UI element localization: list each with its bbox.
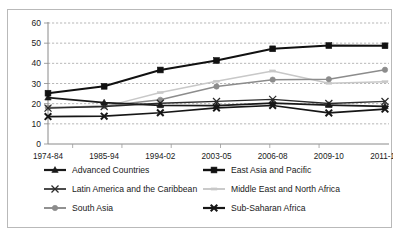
legend-item-advanced-countries[interactable]: Advanced Countries (44, 165, 149, 175)
data-point (101, 83, 107, 89)
data-point (214, 80, 220, 82)
chart-canvas: 01020304050601974-841985-941994-022003-0… (8, 10, 393, 229)
chart-legend: Advanced CountriesEast Asia and PacificL… (44, 165, 340, 213)
data-point (326, 43, 332, 49)
legend-label: Sub-Saharan Africa (231, 203, 306, 213)
data-point (214, 84, 219, 89)
y-tick-label: 10 (32, 119, 42, 129)
legend-item-latin-america-and-the-caribbean[interactable]: Latin America and the Caribbean (44, 184, 197, 194)
x-tick-label: 1974-84 (33, 152, 63, 161)
legend-label: South Asia (72, 203, 113, 213)
legend-label: Middle East and North Africa (231, 184, 340, 194)
legend-marker (211, 167, 217, 173)
y-tick-label: 60 (32, 18, 42, 28)
x-tick-label: 2003-05 (201, 152, 231, 161)
x-tick-label: 1994-02 (145, 152, 175, 161)
x-tick-label: 2006-08 (258, 152, 288, 161)
line-chart: 01020304050601974-841985-941994-022003-0… (8, 10, 393, 229)
data-point (157, 91, 163, 93)
y-tick-label: 50 (32, 38, 42, 48)
legend-item-sub-saharan-africa[interactable]: Sub-Saharan Africa (203, 203, 306, 213)
data-point (382, 67, 387, 72)
legend-label: East Asia and Pacific (231, 165, 312, 175)
legend-item-south-asia[interactable]: South Asia (44, 203, 113, 213)
legend-marker (52, 205, 57, 210)
data-point (270, 70, 276, 72)
data-point (214, 58, 220, 64)
legend-item-east-asia-and-pacific[interactable]: East Asia and Pacific (203, 165, 312, 175)
legend-marker (211, 188, 217, 190)
data-point (326, 82, 332, 84)
legend-item-middle-east-and-north-africa[interactable]: Middle East and North Africa (203, 184, 340, 194)
data-point (382, 43, 388, 49)
data-point (270, 77, 275, 82)
data-point (157, 67, 163, 73)
x-tick-label: 2009-10 (314, 152, 344, 161)
data-point (45, 90, 51, 96)
y-tick-label: 0 (36, 139, 41, 149)
legend-label: Advanced Countries (72, 165, 149, 175)
x-tick-label: 2011-15 (370, 152, 393, 161)
legend-label: Latin America and the Caribbean (72, 184, 197, 194)
y-tick-label: 40 (32, 58, 42, 68)
y-tick-label: 30 (32, 79, 42, 89)
x-tick-label: 1985-94 (89, 152, 119, 161)
chart-card: 01020304050601974-841985-941994-022003-0… (7, 9, 392, 228)
x-axis-ticks: 1974-841985-941994-022003-052006-082009-… (33, 144, 393, 161)
data-point (270, 46, 276, 52)
data-point (326, 77, 331, 82)
y-tick-label: 20 (32, 99, 42, 109)
data-point (382, 81, 388, 83)
